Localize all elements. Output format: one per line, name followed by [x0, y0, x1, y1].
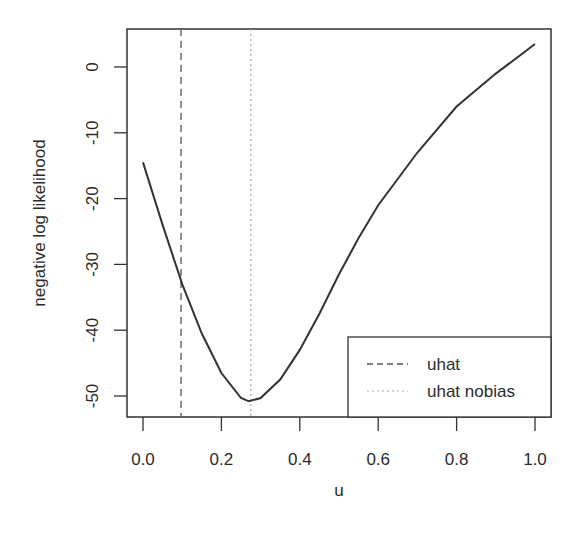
legend-label-uhat: uhat	[427, 355, 460, 374]
legend-label-uhat-nobias: uhat nobias	[427, 382, 515, 401]
y-tick-label: 0	[83, 62, 102, 71]
x-tick-label: 1.0	[523, 450, 547, 469]
y-tick-label: -20	[83, 186, 102, 211]
x-tick-label: 0.4	[288, 450, 312, 469]
y-axis-label: negative log likelihood	[30, 139, 49, 306]
legend: uhat uhat nobias	[348, 337, 551, 417]
chart-canvas: 0-10-20-30-40-50 0.00.20.40.60.81.0 u ne…	[0, 0, 576, 537]
y-tick-label: -50	[83, 384, 102, 409]
x-axis: 0.00.20.40.60.81.0	[131, 417, 547, 469]
y-tick-label: -30	[83, 252, 102, 277]
x-tick-label: 0.6	[366, 450, 390, 469]
x-tick-label: 0.2	[210, 450, 234, 469]
x-tick-label: 0.0	[131, 450, 155, 469]
y-axis: 0-10-20-30-40-50	[83, 62, 127, 408]
x-tick-label: 0.8	[445, 450, 469, 469]
legend-box	[348, 337, 551, 417]
y-tick-label: -40	[83, 318, 102, 343]
x-axis-label: u	[334, 481, 343, 500]
y-tick-label: -10	[83, 121, 102, 146]
